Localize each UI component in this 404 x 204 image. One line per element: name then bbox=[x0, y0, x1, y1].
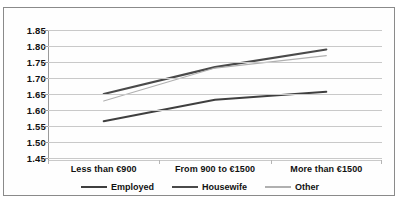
legend-line-swatch-icon bbox=[265, 186, 291, 187]
legend-item-label: Other bbox=[295, 182, 319, 192]
gridline bbox=[48, 158, 382, 159]
x-axis-tick-label: More than €1500 bbox=[290, 164, 362, 174]
legend-item-housewife[interactable]: Housewife bbox=[172, 182, 247, 192]
series-line-employed bbox=[104, 92, 327, 121]
y-axis-tick-label: 1.70 bbox=[12, 73, 46, 84]
y-axis-tick-label: 1.50 bbox=[12, 137, 46, 148]
y-axis-tick-label: 1.65 bbox=[12, 89, 46, 100]
gridline bbox=[48, 78, 382, 79]
chart-plot-wrapper: 1.851.801.751.701.651.601.551.501.45 Les… bbox=[4, 8, 396, 197]
legend-item-employed[interactable]: Employed bbox=[81, 182, 154, 192]
y-axis-tick-label: 1.75 bbox=[12, 57, 46, 68]
gridline bbox=[48, 62, 382, 63]
y-axis-tick-label: 1.80 bbox=[12, 41, 46, 52]
plot-area bbox=[48, 30, 382, 158]
y-axis-tick-label: 1.55 bbox=[12, 121, 46, 132]
chart-legend: EmployedHousewifeOther bbox=[4, 182, 396, 192]
gridline bbox=[48, 110, 382, 111]
legend-item-label: Employed bbox=[111, 182, 154, 192]
gridline bbox=[48, 46, 382, 47]
chart-frame: 1.851.801.751.701.651.601.551.501.45 Les… bbox=[3, 7, 395, 196]
x-axis-tickmark bbox=[381, 160, 382, 164]
gridline bbox=[48, 30, 382, 31]
x-axis-tick-label: From 900 to €1500 bbox=[175, 164, 255, 174]
legend-item-label: Housewife bbox=[202, 182, 247, 192]
legend-item-other[interactable]: Other bbox=[265, 182, 319, 192]
gridline bbox=[48, 94, 382, 95]
x-axis-line bbox=[48, 160, 382, 161]
x-axis-tickmark bbox=[271, 160, 272, 164]
legend-line-swatch-icon bbox=[81, 186, 107, 188]
x-axis-tickmark bbox=[159, 160, 160, 164]
gridline bbox=[48, 142, 382, 143]
y-axis-tick-label: 1.60 bbox=[12, 105, 46, 116]
legend-line-swatch-icon bbox=[172, 186, 198, 189]
gridline bbox=[48, 126, 382, 127]
x-axis-tickmark bbox=[48, 160, 49, 164]
y-axis-tick-labels: 1.851.801.751.701.651.601.551.501.45 bbox=[10, 8, 46, 197]
series-line-housewife bbox=[104, 50, 327, 94]
y-axis-tick-label: 1.85 bbox=[12, 25, 46, 36]
y-axis-tick-label: 1.45 bbox=[12, 153, 46, 164]
x-axis-tick-label: Less than €900 bbox=[71, 164, 137, 174]
